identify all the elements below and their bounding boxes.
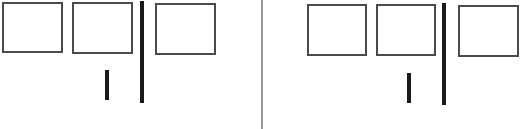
short-bar [407, 73, 411, 103]
square-box [155, 3, 216, 55]
tall-bar [442, 3, 446, 105]
square-box [376, 4, 436, 56]
tall-bar [140, 1, 144, 103]
square-box [72, 2, 133, 54]
square-box [307, 4, 367, 56]
panel-divider [261, 0, 263, 129]
short-bar [105, 70, 109, 100]
square-box [2, 2, 63, 53]
square-box [458, 5, 519, 57]
